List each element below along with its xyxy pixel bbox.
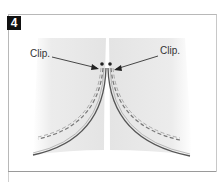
clip-label-right: Clip. bbox=[160, 45, 180, 56]
step-number-badge: 4 bbox=[7, 16, 21, 30]
clip-label-left: Clip. bbox=[30, 48, 50, 59]
clip-marker-icon bbox=[100, 62, 104, 66]
clip-marker-icon bbox=[108, 62, 112, 66]
seam-illustration bbox=[0, 0, 222, 182]
